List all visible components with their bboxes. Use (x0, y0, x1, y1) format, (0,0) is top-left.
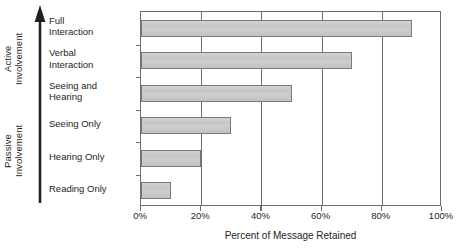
gridline (261, 12, 262, 205)
bar (141, 150, 201, 167)
bar (141, 20, 412, 37)
bar (141, 85, 292, 102)
x-axis-tick-label: 40% (240, 210, 280, 221)
y-axis-tick (136, 175, 141, 176)
x-axis-tick-label: 0% (120, 210, 160, 221)
active-involvement-label: Active Involvement (2, 16, 24, 102)
bar (141, 52, 352, 69)
category-label: Full Interaction (49, 15, 137, 38)
bar (141, 117, 231, 134)
category-label: Seeing and Hearing (49, 80, 137, 103)
y-axis-tick (136, 110, 141, 111)
x-axis-tick-label: 80% (361, 210, 401, 221)
x-axis-tick-label: 20% (180, 210, 220, 221)
gridline (382, 12, 383, 205)
plot-area (140, 11, 441, 206)
category-label: Hearing Only (49, 151, 137, 163)
passive-involvement-label: Passive Involvement (2, 105, 24, 197)
x-axis-title: Percent of Message Retained (140, 230, 441, 241)
category-label: Seeing Only (49, 118, 137, 130)
gridline (201, 12, 202, 205)
y-axis-tick (136, 142, 141, 143)
y-axis-tick (136, 77, 141, 78)
gridline (322, 12, 323, 205)
involvement-arrow-icon (33, 4, 47, 203)
x-axis-tick-label: 60% (301, 210, 341, 221)
category-label: Reading Only (49, 183, 137, 195)
category-label-column: Full InteractionVerbal InteractionSeeing… (49, 11, 137, 206)
category-label: Verbal Interaction (49, 47, 137, 70)
y-axis-tick (136, 45, 141, 46)
x-axis-tick-label: 100% (421, 210, 461, 221)
bar (141, 182, 171, 199)
chart-figure: Active Involvement Passive Involvement F… (0, 0, 463, 250)
